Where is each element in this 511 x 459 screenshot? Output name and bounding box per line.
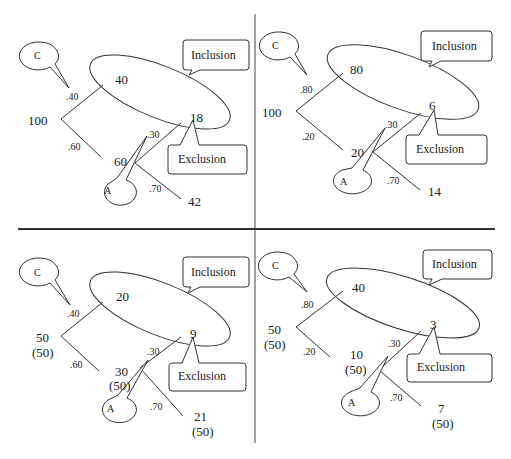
exclusion-end-sub: (50) (432, 416, 454, 431)
a-callout: A (334, 128, 385, 194)
p-upper: .40 (67, 308, 80, 319)
inclusion-value: 9 (190, 326, 197, 341)
p-lower: .20 (303, 346, 316, 357)
p-a-upper: .30 (147, 129, 160, 140)
p-upper: .80 (300, 84, 313, 95)
p-lower: .20 (302, 131, 315, 142)
lower-value: 60 (114, 154, 127, 169)
panel-bottom-right: C A Inclusion Exclusion 50 (50) .80 .20 … (258, 250, 492, 431)
c-label: C (272, 260, 279, 271)
upper-value: 20 (116, 289, 129, 304)
exclusion-callout: Exclusion (169, 337, 246, 391)
a-label: A (107, 403, 115, 414)
p-lower: .60 (68, 141, 81, 152)
lower-value: 10 (350, 347, 363, 362)
lower-value: 20 (351, 145, 364, 160)
root-sub: (50) (32, 345, 54, 360)
root-value: 50 (268, 322, 281, 337)
lower-value: 30 (115, 364, 128, 379)
c-label: C (34, 267, 41, 278)
inclusion-label: Inclusion (432, 257, 477, 271)
diagram-canvas: C A Inclusion Exclusion 100 .40 .60 40 6… (0, 0, 511, 459)
exclusion-callout: Exclusion (406, 110, 487, 164)
inclusion-value: 6 (429, 98, 436, 113)
c-callout: C (19, 258, 70, 305)
inclusion-value: 3 (430, 317, 437, 332)
inclusion-callout: Inclusion (423, 250, 492, 285)
inclusion-label: Inclusion (191, 265, 236, 279)
exclusion-label: Exclusion (417, 360, 465, 374)
p-a-upper: .30 (388, 338, 401, 349)
exclusion-label: Exclusion (416, 142, 464, 156)
c-callout: C (259, 32, 307, 75)
lower-sub: (50) (109, 378, 131, 393)
p-a-lower: .70 (390, 392, 403, 403)
p-a-upper: .30 (147, 346, 160, 357)
root-value: 50 (36, 330, 49, 345)
exclusion-end-value: 42 (188, 194, 201, 209)
p-a-lower: .70 (387, 175, 400, 186)
inclusion-callout: Inclusion (183, 40, 249, 75)
c-label: C (272, 40, 279, 51)
inclusion-callout: Inclusion (421, 31, 492, 67)
root-value: 100 (28, 113, 48, 128)
a-label: A (348, 397, 356, 408)
p-upper: .80 (301, 299, 314, 310)
inclusion-callout: Inclusion (183, 257, 249, 293)
exclusion-callout: Exclusion (168, 120, 247, 174)
lower-sub: (50) (345, 362, 367, 377)
a-label: A (340, 176, 348, 187)
panel-top-left: C A Inclusion Exclusion 100 .40 .60 40 6… (19, 40, 249, 209)
p-a-upper: .30 (385, 119, 398, 130)
inclusion-label: Inclusion (432, 39, 477, 53)
p-lower: .60 (70, 359, 83, 370)
exclusion-end-sub: (50) (192, 424, 214, 439)
a-callout: A (104, 136, 147, 205)
p-a-lower: .70 (150, 401, 163, 412)
p-upper: .40 (66, 91, 79, 102)
panel-bottom-left: C A Inclusion Exclusion 50 (50) .40 .60 … (19, 257, 249, 439)
exclusion-label: Exclusion (178, 369, 226, 383)
a-label: A (104, 185, 112, 196)
exclusion-end-value: 14 (428, 184, 442, 199)
upper-value: 80 (350, 62, 363, 77)
root-value: 100 (262, 105, 282, 120)
p-a-lower: .70 (149, 183, 162, 194)
exclusion-end-value: 7 (438, 401, 445, 416)
root-sub: (50) (264, 337, 286, 352)
inclusion-label: Inclusion (191, 48, 236, 62)
exclusion-callout: Exclusion (407, 327, 492, 382)
c-callout: C (19, 42, 69, 88)
inclusion-value: 18 (190, 110, 203, 125)
upper-value: 40 (115, 72, 128, 87)
c-callout: C (258, 252, 307, 292)
panel-top-right: C A Inclusion Exclusion 100 .80 .20 80 2… (259, 29, 492, 199)
upper-value: 40 (352, 280, 365, 295)
exclusion-end-value: 21 (194, 409, 207, 424)
c-label: C (34, 50, 41, 61)
exclusion-label: Exclusion (178, 152, 226, 166)
